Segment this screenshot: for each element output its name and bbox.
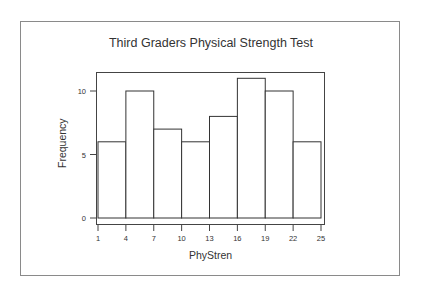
x-tick-label: 22 xyxy=(289,234,297,243)
x-tick-label: 1 xyxy=(96,234,100,243)
histogram-bar xyxy=(210,116,238,218)
x-tick-label: 25 xyxy=(317,234,325,243)
x-tick-label: 7 xyxy=(152,234,156,243)
histogram-bar xyxy=(265,91,293,218)
x-tick-label: 13 xyxy=(205,234,213,243)
histogram-bar xyxy=(154,129,182,218)
histogram-plot: 0510147101316192225 xyxy=(0,0,422,293)
histogram-bar xyxy=(293,142,321,218)
x-tick-label: 19 xyxy=(261,234,269,243)
x-tick-label: 10 xyxy=(177,234,185,243)
x-tick-label: 16 xyxy=(233,234,241,243)
y-tick-label: 5 xyxy=(82,151,86,160)
histogram-bar xyxy=(98,142,126,218)
x-tick-label: 4 xyxy=(124,234,128,243)
y-tick-label: 0 xyxy=(82,214,86,223)
histogram-bar xyxy=(182,142,210,218)
histogram-bar xyxy=(237,78,265,218)
histogram-bar xyxy=(126,91,154,218)
y-tick-label: 10 xyxy=(78,87,86,96)
